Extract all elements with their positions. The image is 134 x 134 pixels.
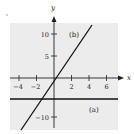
y-axis-label: y xyxy=(50,4,56,12)
x-axis-arrow-icon xyxy=(118,76,124,81)
series-a-label: (a) xyxy=(89,106,99,114)
x-tick-label: 2 xyxy=(69,83,73,91)
x-tick-label: −4 xyxy=(13,83,23,91)
chart: x y −4 −2 2 4 6 10 5 −10 (a) (b) xyxy=(0,0,134,134)
y-tick-label: 10 xyxy=(41,31,49,39)
figure-marker-dot xyxy=(6,14,8,16)
y-tick-label: −10 xyxy=(35,114,49,122)
x-tick-label: −2 xyxy=(31,83,41,91)
series-b-label: (b) xyxy=(69,31,79,39)
x-axis-label: x xyxy=(127,74,131,82)
y-tick-label: 5 xyxy=(45,53,49,61)
x-tick-label: 4 xyxy=(87,83,91,91)
x-tick-label: 6 xyxy=(104,83,108,91)
plot-background xyxy=(10,23,118,130)
y-axis-arrow-icon xyxy=(52,16,57,22)
